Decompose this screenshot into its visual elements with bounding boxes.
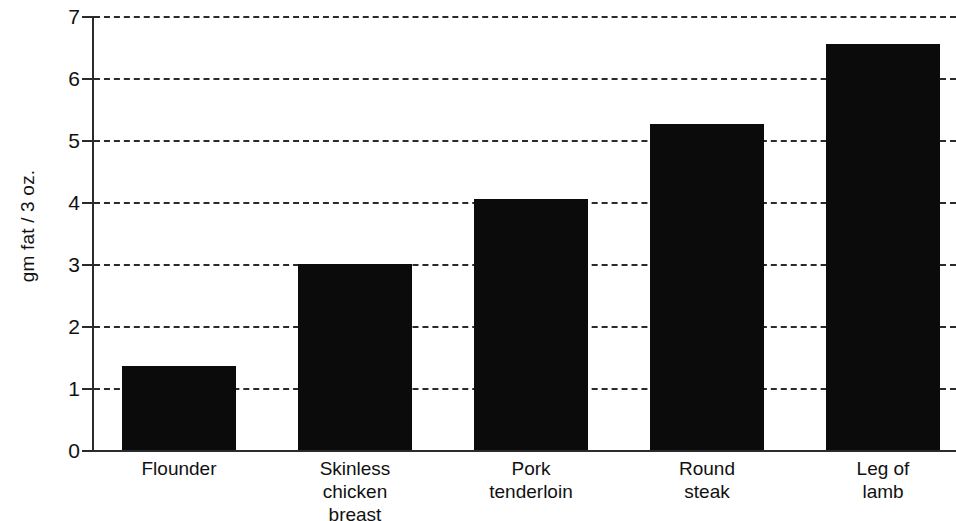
y-tick-label: 1 — [68, 378, 80, 399]
y-tick-mark — [82, 326, 94, 328]
bar — [122, 366, 236, 450]
y-tick-label: 5 — [68, 130, 80, 151]
x-axis-label-line: chicken — [298, 480, 412, 503]
y-tick-label: 4 — [68, 192, 80, 213]
y-tick-mark — [82, 450, 94, 452]
y-tick-label: 6 — [68, 68, 80, 89]
x-axis-label: Porktenderloin — [474, 457, 588, 503]
x-axis-label-line: breast — [298, 503, 412, 521]
y-tick-mark — [82, 264, 94, 266]
x-axis-label-line: Skinless — [298, 457, 412, 480]
x-axis-label-line: Round — [650, 457, 764, 480]
plot-area: 01234567 — [92, 16, 956, 452]
x-axis-labels: FlounderSkinlesschickenbreastPorktenderl… — [92, 457, 956, 521]
y-axis-title-text: gm fat / 3 oz. — [17, 170, 39, 283]
x-axis-label: Roundsteak — [650, 457, 764, 503]
x-axis-label: Skinlesschickenbreast — [298, 457, 412, 521]
x-axis-label: Leg oflamb — [826, 457, 940, 503]
y-axis-title: gm fat / 3 oz. — [0, 0, 56, 452]
y-tick-label: 3 — [68, 254, 80, 275]
x-axis-label-line: steak — [650, 480, 764, 503]
x-axis-label-line: Leg of — [826, 457, 940, 480]
y-tick-mark — [82, 140, 94, 142]
y-tick-mark — [82, 78, 94, 80]
bar — [826, 44, 940, 450]
y-tick-label: 7 — [68, 6, 80, 27]
y-tick-mark — [82, 388, 94, 390]
x-axis-label-line: lamb — [826, 480, 940, 503]
y-tick-mark — [82, 16, 94, 18]
x-axis-label-line: Pork — [474, 457, 588, 480]
bar-chart: gm fat / 3 oz. 01234567 FlounderSkinless… — [0, 0, 956, 521]
x-axis-label-line: Flounder — [122, 457, 236, 480]
gridline — [94, 16, 956, 18]
y-tick-mark — [82, 202, 94, 204]
y-axis-line — [92, 16, 94, 452]
x-axis-line — [92, 450, 956, 452]
bar — [650, 124, 764, 450]
x-axis-label-line: tenderloin — [474, 480, 588, 503]
bar — [298, 264, 412, 450]
y-tick-label: 2 — [68, 316, 80, 337]
y-tick-label: 0 — [68, 440, 80, 461]
bar — [474, 199, 588, 450]
x-axis-label: Flounder — [122, 457, 236, 480]
